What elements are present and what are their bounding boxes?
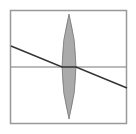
- lens-ray-diagram: [0, 0, 136, 134]
